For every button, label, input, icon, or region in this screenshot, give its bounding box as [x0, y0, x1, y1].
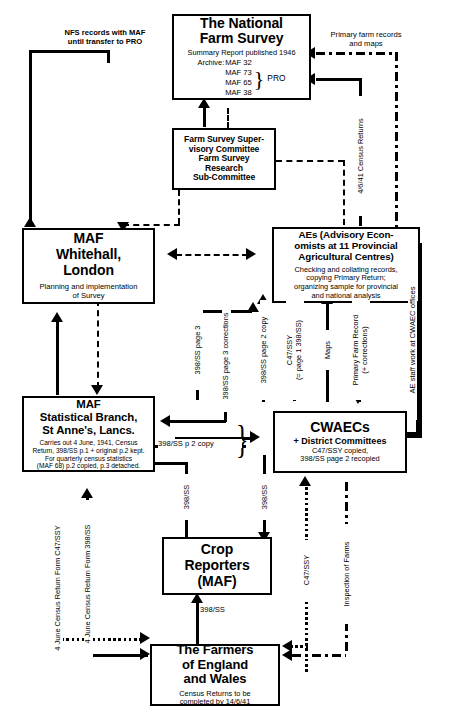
edge-primary-records-h [316, 52, 396, 55]
arrow-right-aes-dashed [246, 248, 256, 260]
label-c47ssy-page1: C47/SSY(= page 1 398/SS) [286, 300, 304, 400]
box-aes-title: AEs (Advisory Econ-omists at 11 Provinci… [294, 230, 397, 263]
edge-fssc-to-nfs [203, 105, 206, 127]
label-nfs-records: NFS records with MAFuntil transfer to PR… [46, 28, 164, 46]
label-398ss-c: 398/SS [200, 605, 240, 614]
label-return-c47ssy: 4 June Census Return Form C47/SSY [54, 498, 63, 678]
box-farmers[interactable]: The Farmersof Englandand Wales Census Re… [150, 644, 280, 706]
arrow-left-stat-corr [160, 415, 170, 427]
box-nfs-title: The NationalFarm Survey [200, 16, 284, 47]
arrow-right-farmers-returnc47 [140, 632, 150, 644]
edge-census-returns-h [316, 78, 361, 81]
box-farm-survey-supervisory-committee[interactable]: Farm Survey Super-visory CommitteeFarm S… [172, 128, 276, 190]
edge-whitehall-to-aes [176, 254, 248, 256]
arrow-down-stat [91, 385, 103, 395]
label-page2-copy: 398/SS page 2 copy [260, 300, 269, 400]
box-fssc-title: Farm Survey Super-visory CommitteeFarm S… [184, 135, 264, 183]
label-inspection: Inspection of Farms [343, 524, 352, 624]
arrow-right-farmers-return398 [140, 648, 150, 660]
edge-return398-h [86, 654, 148, 657]
box-cwaecs-sub: C47/SSY copied,398/SS page 2 recopied [300, 447, 379, 464]
label-398ss-a: 398/SS [183, 474, 192, 520]
edge-page3corr-h [170, 420, 226, 423]
label-primary-farm-records: Primary farm recordsand maps [316, 30, 416, 48]
label-maps: Maps [324, 330, 333, 370]
arrow-up-whitehall [24, 217, 36, 227]
label-page3: 398/SS page 3 [194, 310, 203, 390]
box-maf-statistical-branch[interactable]: MAFStatistical Branch,St Anne's, Lancs. … [22, 396, 155, 472]
box-whitehall-title: MAFWhitehall,London [56, 231, 121, 278]
arrow-left-whitehall-dashed [167, 248, 177, 260]
edge-whitehall-to-nfs-horizontal [29, 50, 108, 53]
edge-fssc-to-whitehall-h [123, 224, 180, 226]
label-c47ssy-up: C47/SSY [303, 540, 312, 600]
edge-aes-to-stat-v [97, 300, 99, 388]
label-398ss-b: 398/SS [261, 474, 270, 520]
diagram-canvas: } The NationalFarm Survey Summary Report… [0, 0, 451, 719]
box-nfs-line1: Summary Report published 1946 [187, 49, 295, 58]
arrow-right-cwaecs [250, 431, 260, 443]
box-crop-reporters[interactable]: CropReporters(MAF) [162, 537, 272, 595]
box-maf-whitehall-london[interactable]: MAFWhitehall,London Planning and impleme… [22, 228, 155, 304]
edge-nfs-to-fssc [227, 108, 229, 128]
edge-farmers-to-crop-v [196, 600, 199, 644]
edge-fssc-right-v [343, 160, 345, 225]
box-nfs-pro-label: PRO [267, 73, 285, 83]
box-cwaecs-subtitle: + District Committees [294, 436, 387, 446]
box-farmers-title: The Farmersof Englandand Wales [177, 643, 254, 687]
label-return-398ss: 4 June Census Return Form 398/SS [84, 500, 93, 668]
box-stat-sub: Carries out 4 June, 1941, CensusReturn, … [33, 439, 145, 470]
arrow-left-farmers-inspection [282, 649, 292, 661]
maf-list-item: MAF 38 [225, 88, 252, 98]
arrow-up-whitehall-solid [51, 312, 63, 322]
maf-list-item: MAF 73 [225, 68, 252, 78]
box-farmers-sub: Census Returns to becompleted by 14/6/41 [179, 690, 250, 707]
edge-inspection-h [292, 654, 346, 657]
maf-list-item: MAF 32 [225, 58, 252, 68]
label-p2-copy: 398/SS p 2 copy [158, 439, 242, 448]
label-primary-farm-record: Primary Farm Record(+ corrections) [352, 300, 370, 400]
edge-c47ssy-farmers-h [290, 645, 308, 648]
edge-fssc-right-h [276, 160, 344, 162]
edge-primary-records-v [395, 52, 398, 227]
box-crop-title: CropReporters(MAF) [184, 542, 249, 589]
box-national-farm-survey[interactable]: The NationalFarm Survey Summary Report p… [172, 14, 311, 100]
box-cwaecs[interactable]: CWAECs + District Committees C47/SSY cop… [273, 411, 407, 473]
edge-stat-to-whitehall-v [56, 320, 59, 395]
box-nfs-archive-label: Archive: [197, 58, 224, 67]
box-nfs-brace-icon: } [254, 70, 265, 87]
label-ae-staff: AE staff work at CWAEC offices [408, 260, 417, 420]
arrow-up-stat-return398 [81, 488, 93, 498]
edge-fssc-to-whitehall-v [178, 190, 180, 224]
edge-whitehall-to-nfs-vertical [29, 50, 32, 225]
box-aes-sub: Checking and collating records,copying P… [294, 266, 398, 300]
box-stat-title: MAFStatistical Branch,St Anne's, Lancs. [40, 398, 138, 436]
arrow-up-cwaecs-c47ssy [299, 476, 311, 486]
box-nfs-maf-list: MAF 32MAF 73MAF 65MAF 38 [225, 58, 252, 98]
maf-list-item: MAF 65 [225, 78, 252, 88]
box-cwaecs-title: CWAECs [310, 420, 369, 436]
label-census-returns-4641: 4/6/41 Census Returns [357, 96, 366, 216]
box-advisory-economists[interactable]: AEs (Advisory Econ-omists at 11 Provinci… [272, 227, 420, 303]
edge-whitehall-to-nfs-stub [107, 50, 110, 63]
box-nfs-archive-row: Archive: MAF 32MAF 73MAF 65MAF 38 } PRO [197, 58, 285, 98]
label-page3-corrections: 398/SS page 3 corrections [222, 300, 231, 412]
edge-returnc47-h [56, 638, 144, 641]
box-whitehall-sub: Planning and implementationof Survey [40, 283, 138, 301]
